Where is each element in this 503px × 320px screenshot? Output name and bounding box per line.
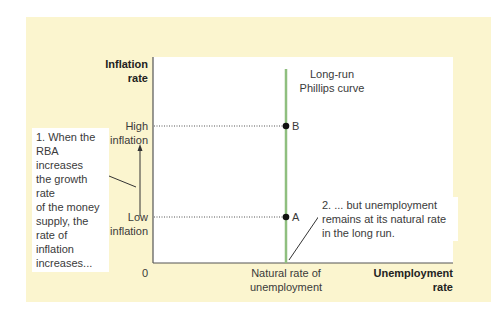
y-axis-label: Inflation rate xyxy=(100,57,148,85)
note1-line: increases... xyxy=(36,256,105,270)
y-axis-label-line2: rate xyxy=(100,71,148,85)
note1-line: of the money xyxy=(36,200,105,214)
curve-label: Long-run Phillips curve xyxy=(292,67,372,95)
natural-label-line1: Natural rate of xyxy=(238,266,334,280)
origin-label: 0 xyxy=(142,266,148,280)
curve-label-line1: Long-run xyxy=(292,67,372,81)
point-a-label: A xyxy=(292,210,299,224)
x-axis-label: Unemployment rate xyxy=(360,266,453,294)
note1-line: RBA increases xyxy=(36,144,105,172)
x-axis-label-line2: rate xyxy=(360,280,453,294)
natural-label-line2: unemployment xyxy=(238,280,334,294)
point-b-marker xyxy=(283,123,290,130)
note1-line: the growth rate xyxy=(36,172,105,200)
note2-line: 2. ... but unemployment xyxy=(322,198,454,212)
point-b-label: B xyxy=(292,119,299,133)
note1-leader-line xyxy=(109,176,136,187)
point-a-marker xyxy=(283,214,290,221)
x-tick-natural-rate: Natural rate of unemployment xyxy=(238,266,334,294)
annotation-1: 1. When the RBA increases the growth rat… xyxy=(32,128,109,272)
note2-line: remains at its natural rate xyxy=(322,212,454,226)
x-axis-label-line1: Unemployment xyxy=(360,266,453,280)
y-axis-label-line1: Inflation xyxy=(100,57,148,71)
note1-line: rate of inflation xyxy=(36,228,105,256)
curve-label-line2: Phillips curve xyxy=(292,81,372,95)
note1-line: supply, the xyxy=(36,214,105,228)
note1-line: 1. When the xyxy=(36,130,105,144)
note2-line: in the long run. xyxy=(322,226,454,240)
annotation-2: 2. ... but unemployment remains at its n… xyxy=(318,197,458,241)
